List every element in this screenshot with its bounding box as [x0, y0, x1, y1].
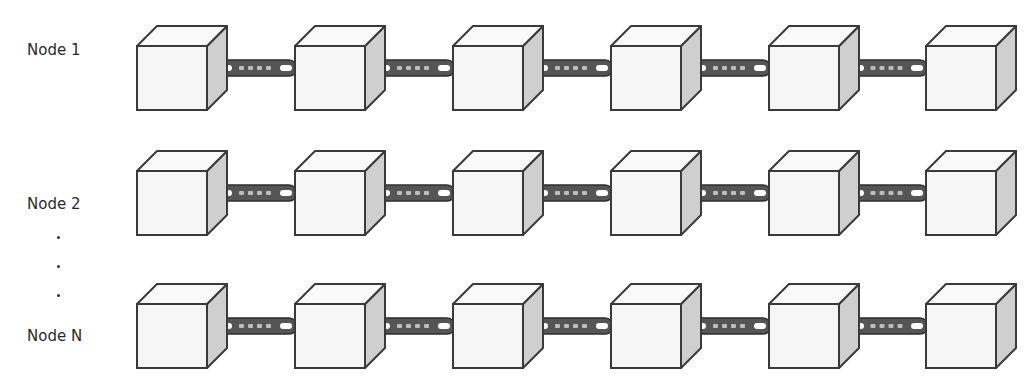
block-cube-icon [769, 151, 859, 235]
blockchain-diagram [0, 0, 1034, 392]
block-cube-icon [453, 26, 543, 110]
block-cube-icon [295, 26, 385, 110]
block-cube-icon [611, 151, 701, 235]
block-cube-icon [926, 151, 1016, 235]
block-cube-icon [769, 26, 859, 110]
block-cube-icon [137, 284, 227, 368]
chain-row [137, 26, 1016, 110]
block-cube-icon [611, 284, 701, 368]
block-cube-icon [295, 284, 385, 368]
block-cube-icon [926, 26, 1016, 110]
block-cube-icon [453, 151, 543, 235]
block-cube-icon [137, 26, 227, 110]
block-cube-icon [137, 151, 227, 235]
chain-row [137, 284, 1016, 368]
block-cube-icon [611, 26, 701, 110]
block-cube-icon [295, 151, 385, 235]
block-cube-icon [453, 284, 543, 368]
chain-row [137, 151, 1016, 235]
block-cube-icon [926, 284, 1016, 368]
block-cube-icon [769, 284, 859, 368]
